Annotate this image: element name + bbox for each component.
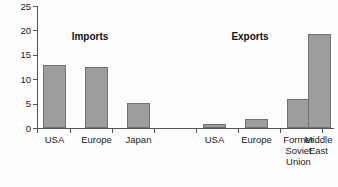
y-tick-label-15: 15 (0, 50, 31, 60)
bar-imports-europe (85, 67, 108, 128)
x-category-label-imports-usa: USA (33, 134, 76, 145)
bar-exports-middle-east (308, 34, 331, 128)
y-tick-mark-10 (33, 79, 38, 80)
y-tick-mark-5 (33, 104, 38, 105)
y-tick-label-20: 20 (0, 26, 31, 36)
x-tick-mark-3 (154, 129, 155, 133)
x-tick-mark-4 (196, 129, 197, 133)
x-category-label-exports-europe: Europe (233, 134, 280, 145)
bar-exports-usa (203, 124, 226, 128)
x-category-label-imports-europe: Europe (73, 134, 120, 145)
x-tick-mark-1 (70, 129, 71, 133)
y-tick-label-25: 25 (0, 2, 31, 12)
y-tick-label-5: 5 (0, 99, 31, 109)
group-title-imports: Imports (45, 31, 135, 42)
y-tick-mark-20 (33, 30, 38, 31)
x-tick-mark-0 (37, 129, 38, 133)
x-tick-mark-2 (112, 129, 113, 133)
x-category-label-imports-japan: Japan (117, 134, 160, 145)
group-title-exports: Exports (205, 31, 295, 42)
y-tick-mark-25 (33, 6, 38, 7)
bar-exports-europe (245, 119, 268, 128)
bar-exports-former-soviet-union (287, 99, 310, 128)
y-tick-mark-15 (33, 55, 38, 56)
y-axis-line (37, 6, 38, 129)
x-tick-mark-5 (238, 129, 239, 133)
x-category-label-exports-middle-east: Middle East (296, 134, 338, 156)
x-tick-mark-7 (322, 129, 323, 133)
x-category-label-exports-usa: USA (193, 134, 236, 145)
x-axis-line (37, 128, 334, 129)
bar-imports-usa (43, 65, 66, 129)
bar-chart: 25 20 15 10 5 0 Imports Exports USA Euro… (0, 0, 338, 187)
bar-imports-japan (127, 103, 150, 128)
y-tick-label-0: 0 (0, 124, 31, 134)
y-tick-label-10: 10 (0, 75, 31, 85)
x-tick-mark-6 (280, 129, 281, 133)
